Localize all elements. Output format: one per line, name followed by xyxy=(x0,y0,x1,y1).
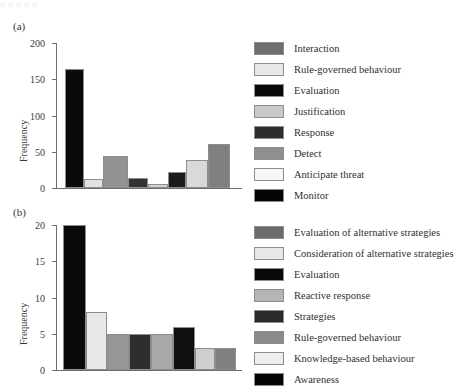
panel-b-bars xyxy=(57,225,242,370)
panel-a-y-tick-label: 100 xyxy=(30,110,45,121)
bar-slot xyxy=(208,43,230,188)
panel-b-y-tick-label: 5 xyxy=(40,328,45,339)
panel-b-plot-area: 05101520 xyxy=(56,225,242,371)
legend-label: Knowledge-based behaviour xyxy=(294,353,414,364)
legend-item[interactable]: Evaluation xyxy=(254,80,401,101)
panel-a-y-tick-label: 0 xyxy=(40,183,45,194)
legend-swatch-icon xyxy=(254,63,284,76)
legend-item[interactable]: Justification xyxy=(254,101,401,122)
panel-b-y-tick: 0 xyxy=(52,370,56,371)
legend-label: Consideration of alternative strategies xyxy=(294,248,454,259)
bar-slot xyxy=(128,43,148,188)
bar[interactable] xyxy=(173,327,195,371)
bar-slot xyxy=(86,225,107,370)
legend-swatch-icon xyxy=(254,268,284,281)
bar-slot xyxy=(195,225,215,370)
legend-item[interactable]: Response xyxy=(254,122,401,143)
bar-slot xyxy=(148,43,168,188)
legend-item[interactable]: Evaluation of alternative strategies xyxy=(254,222,454,243)
bar[interactable] xyxy=(186,160,208,188)
panel-a-y-tick-label: 150 xyxy=(30,74,45,85)
legend-swatch-icon xyxy=(254,247,284,260)
panel-b-y-tick: 15 xyxy=(52,261,56,262)
legend-item[interactable]: Anticipate threat xyxy=(254,164,401,185)
legend-label: Evaluation xyxy=(294,269,340,280)
panel-b-label: (b) xyxy=(13,206,26,218)
top-edge-artifact: ơ ơ ơ ơ ơ xyxy=(0,0,471,9)
panel-a-legend: InteractionRule-governed behaviourEvalua… xyxy=(254,38,401,206)
legend-label: Justification xyxy=(294,106,345,117)
panel-b-y-tick: 5 xyxy=(52,334,56,335)
legend-item[interactable]: Awareness xyxy=(254,369,454,390)
legend-item[interactable]: Consideration of alternative strategies xyxy=(254,243,454,264)
legend-swatch-icon xyxy=(254,226,284,239)
bar[interactable] xyxy=(208,144,230,188)
bar[interactable] xyxy=(129,334,151,370)
legend-item[interactable]: Rule-governed behaviour xyxy=(254,327,454,348)
bar[interactable] xyxy=(148,184,168,188)
legend-item[interactable]: Detect xyxy=(254,143,401,164)
legend-swatch-icon xyxy=(254,289,284,302)
legend-item[interactable]: Interaction xyxy=(254,38,401,59)
legend-label: Evaluation xyxy=(294,85,340,96)
bar[interactable] xyxy=(128,178,148,188)
panel-a-y-tick: 0 xyxy=(52,188,56,189)
legend-label: Detect xyxy=(294,148,321,159)
legend-swatch-icon xyxy=(254,147,284,160)
panel-a-y-axis-label: Frequency xyxy=(18,120,29,162)
panel-a-y-tick: 100 xyxy=(52,116,56,117)
bar-slot xyxy=(65,43,84,188)
legend-item[interactable]: Knowledge-based behaviour xyxy=(254,348,454,369)
bar[interactable] xyxy=(65,69,84,188)
bar[interactable] xyxy=(168,172,186,188)
bar-slot xyxy=(151,225,173,370)
panel-b-y-tick: 10 xyxy=(52,298,56,299)
bar-slot xyxy=(129,225,151,370)
panel-b: (b) Frequency 05101520 Evaluation of alt… xyxy=(0,200,471,390)
legend-item[interactable]: Reactive response xyxy=(254,285,454,306)
panel-b-y-tick: 20 xyxy=(52,225,56,226)
legend-item[interactable]: Strategies xyxy=(254,306,454,327)
bar[interactable] xyxy=(195,348,215,370)
bar[interactable] xyxy=(107,334,129,370)
panel-a-x-axis xyxy=(56,188,242,189)
bar[interactable] xyxy=(84,179,103,188)
legend-swatch-icon xyxy=(254,352,284,365)
legend-swatch-icon xyxy=(254,310,284,323)
legend-label: Rule-governed behaviour xyxy=(294,64,401,75)
legend-label: Interaction xyxy=(294,43,339,54)
legend-swatch-icon xyxy=(254,84,284,97)
bar-slot xyxy=(168,43,186,188)
bar-slot xyxy=(173,225,195,370)
bar[interactable] xyxy=(86,312,107,370)
bar[interactable] xyxy=(103,156,128,188)
legend-label: Strategies xyxy=(294,311,335,322)
bar[interactable] xyxy=(151,334,173,370)
figure-bar-charts: ơ ơ ơ ơ ơ (a) Frequency 050100150200 Int… xyxy=(0,0,471,390)
bar-slot xyxy=(84,43,103,188)
panel-b-y-tick-label: 0 xyxy=(40,365,45,376)
panel-b-x-axis xyxy=(56,370,242,371)
panel-a: (a) Frequency 050100150200 InteractionRu… xyxy=(0,14,471,200)
bar-slot xyxy=(107,225,129,370)
bar-slot xyxy=(215,225,236,370)
panel-b-y-tick-label: 15 xyxy=(35,256,45,267)
legend-swatch-icon xyxy=(254,126,284,139)
panel-a-y-tick: 50 xyxy=(52,152,56,153)
legend-label: Response xyxy=(294,127,334,138)
legend-item[interactable]: Evaluation xyxy=(254,264,454,285)
bar[interactable] xyxy=(215,348,236,370)
legend-label: Evaluation of alternative strategies xyxy=(294,227,440,238)
bar[interactable] xyxy=(63,225,86,370)
panel-b-legend: Evaluation of alternative strategiesCons… xyxy=(254,222,454,390)
bar-slot xyxy=(103,43,128,188)
panel-a-plot-area: 050100150200 xyxy=(56,43,242,189)
panel-b-y-tick-label: 10 xyxy=(35,292,45,303)
panel-a-y-tick: 150 xyxy=(52,79,56,80)
panel-b-y-axis-label: Frequency xyxy=(18,303,29,345)
legend-swatch-icon xyxy=(254,42,284,55)
panel-a-label: (a) xyxy=(13,20,25,32)
bar-slot xyxy=(186,43,208,188)
panel-b-y-tick-label: 20 xyxy=(35,220,45,231)
legend-item[interactable]: Rule-governed behaviour xyxy=(254,59,401,80)
